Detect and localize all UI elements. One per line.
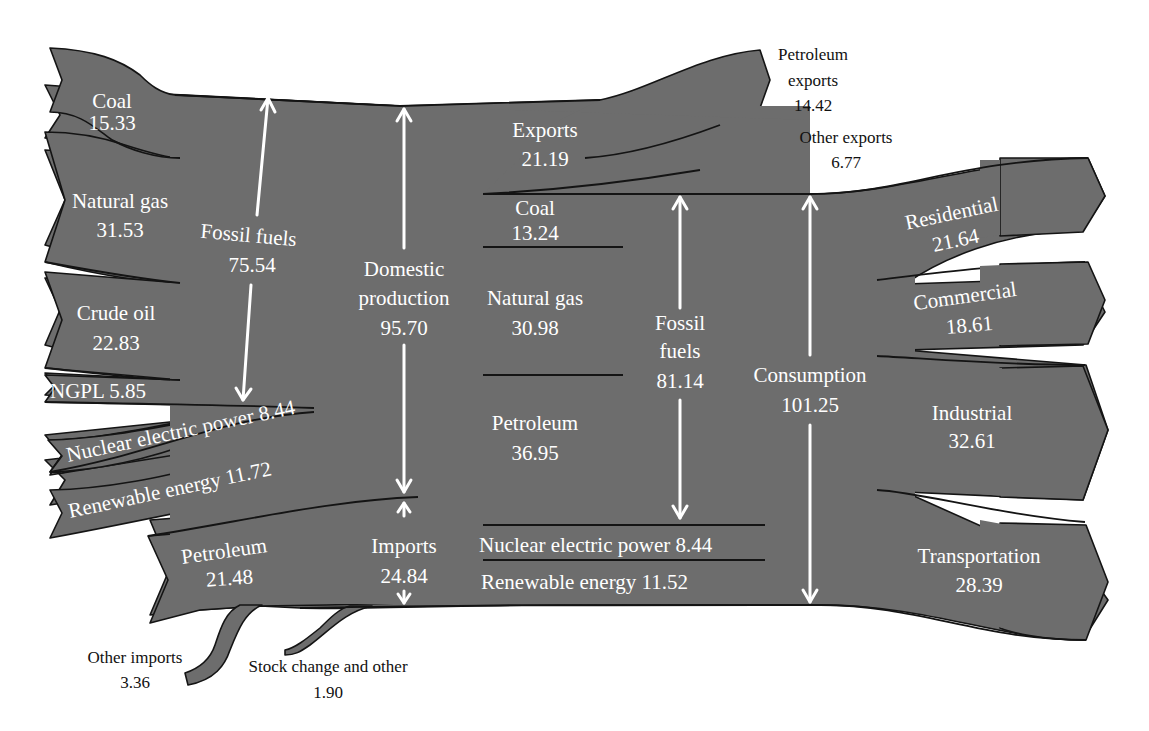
domestic-production-label-line2: production [359, 286, 450, 310]
transportation-arrow-tip [1000, 523, 1108, 640]
commercial-arrow-tip [1000, 262, 1105, 346]
consumption-value: 101.25 [781, 393, 839, 417]
imports-label: Imports [371, 534, 436, 558]
energy-flow-diagram: Coal 15.33 Natural gas 31.53 Crude oil 2… [0, 0, 1149, 731]
natural-gas-supply-label: Natural gas [487, 286, 583, 310]
coal-supply-value: 13.24 [511, 221, 559, 245]
coal-supply-label: Coal [515, 196, 555, 220]
other-exports-value: 6.77 [831, 153, 861, 172]
natural-gas-supply-value: 30.98 [511, 316, 558, 340]
other-imports-label: Other imports [88, 648, 183, 667]
consumption-label: Consumption [753, 363, 867, 387]
coal-source-value: 15.33 [88, 111, 135, 135]
commercial-value: 18.61 [945, 311, 994, 339]
petroleum-exports-value: 14.42 [794, 96, 832, 115]
industrial-label: Industrial [932, 401, 1013, 425]
industrial-value: 32.61 [948, 429, 995, 453]
transportation-value: 28.39 [955, 573, 1002, 597]
exports-value: 21.19 [521, 147, 568, 171]
transportation-label: Transportation [918, 544, 1041, 568]
natural-gas-source-label: Natural gas [72, 189, 168, 213]
other-imports-value: 3.36 [120, 673, 150, 692]
fossil-fuels-consumption-value: 81.14 [656, 369, 704, 393]
petroleum-exports-label-line2: exports [788, 71, 838, 90]
renewable-supply-label: Renewable energy 11.52 [481, 570, 688, 594]
ngpl-source-label: NGPL 5.85 [50, 379, 146, 403]
natural-gas-source-value: 31.53 [96, 218, 143, 242]
imports-petroleum-value: 21.48 [205, 564, 254, 591]
stock-change-value: 1.90 [313, 683, 343, 702]
stock-change-band [285, 606, 372, 655]
fossil-fuels-consumption-label-line2: fuels [660, 339, 701, 363]
crude-oil-source-label: Crude oil [77, 301, 156, 325]
petroleum-supply-label: Petroleum [492, 411, 578, 435]
fossil-fuels-consumption-label-line1: Fossil [655, 311, 705, 335]
domestic-production-label-line1: Domestic [364, 257, 444, 281]
fossil-fuels-production-value: 75.54 [228, 253, 276, 277]
coal-source-label: Coal [92, 89, 132, 113]
stock-change-label: Stock change and other [248, 657, 407, 676]
residential-arrow-tip [1000, 158, 1105, 236]
petroleum-exports-label-line1: Petroleum [778, 45, 848, 64]
imports-value: 24.84 [380, 564, 428, 588]
domestic-production-value: 95.70 [380, 316, 427, 340]
crude-oil-source-value: 22.83 [92, 331, 139, 355]
nuclear-supply-label: Nuclear electric power 8.44 [479, 533, 713, 557]
petroleum-supply-value: 36.95 [511, 441, 558, 465]
other-exports-label: Other exports [799, 128, 892, 147]
exports-label: Exports [512, 118, 577, 142]
